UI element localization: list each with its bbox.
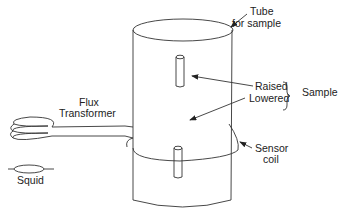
flux-transformer — [11, 117, 134, 140]
squid-magnetometer-diagram — [0, 0, 340, 218]
sensor-arrow — [240, 142, 252, 148]
sensor-label-line2: coil — [263, 154, 279, 165]
tube-label-line1: Tube — [250, 6, 274, 17]
tube-label-line2: for sample — [232, 18, 281, 29]
squid-label: Squid — [17, 175, 44, 186]
squid-symbol — [8, 165, 54, 173]
raised-label: Raised — [255, 81, 288, 92]
sensor-coil — [127, 124, 239, 161]
lowered-arrow — [190, 98, 245, 120]
lowered-label: Lowered — [249, 93, 289, 104]
sample-label: Sample — [302, 87, 338, 98]
flux-label-line2: Transformer — [59, 108, 116, 119]
lowered-sample — [174, 146, 182, 178]
sample-tube — [133, 19, 233, 207]
raised-sample — [176, 55, 184, 87]
raised-arrow — [192, 76, 253, 86]
